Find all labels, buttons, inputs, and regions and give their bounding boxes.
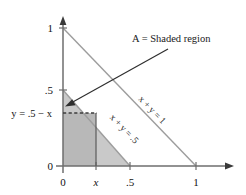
- coordinate-diagram: 1 .5 0 0 x .5 1 A = Shaded region y = .5…: [0, 0, 246, 195]
- y-axis-arrowhead: [60, 16, 67, 25]
- y-tick-label-1: 1: [48, 22, 54, 34]
- x-tick-label-half: .5: [126, 176, 135, 188]
- line-label-x-plus-y-equals-half: x + y = .5: [108, 112, 141, 146]
- y-tick-label-half: .5: [45, 84, 54, 96]
- x-axis-arrowhead: [225, 163, 234, 170]
- shaded-region-annotation: A = Shaded region: [132, 33, 211, 44]
- figure-container: 1 .5 0 0 x .5 1 A = Shaded region y = .5…: [0, 0, 246, 195]
- y-tick-label-0: 0: [48, 160, 54, 172]
- annotation-arrow-shaft: [71, 49, 168, 103]
- x-tick-label-x: x: [93, 176, 99, 188]
- x-tick-label-0: 0: [60, 176, 66, 188]
- x-tick-label-1: 1: [193, 176, 199, 188]
- height-equation-label: y = .5 − x: [11, 108, 52, 119]
